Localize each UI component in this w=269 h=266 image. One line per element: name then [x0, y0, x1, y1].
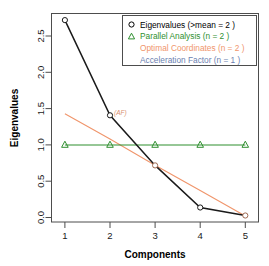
circle-marker — [243, 213, 248, 218]
legend-label-optimal-coordinates: Optimal Coordinates (n = 2 ) — [140, 43, 245, 53]
x-axis-title: Components — [124, 249, 186, 260]
circle-marker — [153, 163, 158, 168]
y-tick-label-2: 1.0 — [35, 138, 46, 151]
x-tick-label-4: 5 — [243, 230, 248, 241]
plot-canvas: 0.0 0.5 1.0 1.5 2.0 2.5 Eigenvalues 1 2 … — [0, 0, 269, 266]
y-tick-label-4: 2.0 — [35, 66, 46, 79]
x-tick-label-0: 1 — [62, 230, 67, 241]
circle-marker — [62, 18, 67, 23]
x-tick-label-2: 3 — [152, 230, 157, 241]
acceleration-factor-annotation: (AF) — [114, 109, 127, 117]
y-tick-label-5: 2.5 — [35, 29, 46, 42]
y-axis-title: Eigenvalues — [9, 88, 20, 147]
legend-label-acceleration-factor: Acceleration Factor (n = 1 ) — [140, 55, 241, 65]
legend: Eigenvalues (>mean = 2 ) Parallel Analys… — [123, 16, 257, 66]
y-tick-label-1: 0.5 — [35, 175, 46, 188]
scree-plot-figure: 0.0 0.5 1.0 1.5 2.0 2.5 Eigenvalues 1 2 … — [0, 0, 269, 266]
y-tick-label-3: 1.5 — [35, 102, 46, 115]
x-tick-label-3: 4 — [198, 230, 203, 241]
legend-label-parallel-analysis: Parallel Analysis (n = 2 ) — [140, 31, 229, 41]
legend-label-eigenvalues: Eigenvalues (>mean = 2 ) — [140, 20, 235, 30]
circle-marker — [198, 205, 203, 210]
circle-marker — [107, 113, 112, 118]
y-tick-label-0: 0.0 — [35, 211, 46, 224]
x-tick-label-1: 2 — [107, 230, 112, 241]
